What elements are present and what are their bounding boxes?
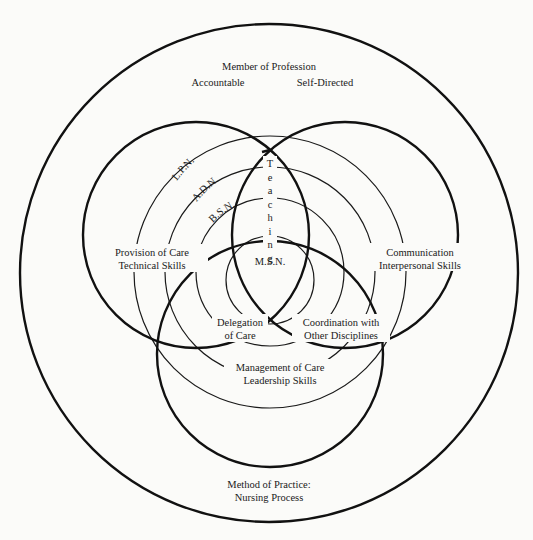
coordination-label: Coordination with xyxy=(303,317,380,328)
teaching-letter: i xyxy=(269,226,272,237)
lpn-label: L.P.N. xyxy=(170,155,196,182)
teaching-letter: h xyxy=(267,212,273,223)
accountable-label: Accountable xyxy=(191,77,244,88)
teaching-letter: T xyxy=(267,158,274,169)
teaching-letter: c xyxy=(268,199,273,210)
outer-circle-profession xyxy=(20,24,518,522)
technical-skills-label: Technical Skills xyxy=(118,260,185,271)
of-care-label: of Care xyxy=(224,330,256,341)
teaching-letter: g xyxy=(267,253,273,264)
teaching-letter: n xyxy=(267,239,273,250)
self-directed-label: Self-Directed xyxy=(297,77,354,88)
method-of-practice-label: Method of Practice: xyxy=(227,479,310,490)
nursing-process-label: Nursing Process xyxy=(235,492,304,503)
teaching-letter: e xyxy=(268,172,273,183)
interpersonal-skills-label: Interpersonal Skills xyxy=(379,260,461,271)
management-of-care-label: Management of Care xyxy=(236,362,325,373)
teaching-letter: a xyxy=(268,185,273,196)
adn-label: A.D.N. xyxy=(190,174,220,204)
provision-of-care-label: Provision of Care xyxy=(115,247,189,258)
nursing-competency-diagram: Member of Profession Accountable Self-Di… xyxy=(0,0,533,540)
other-disciplines-label: Other Disciplines xyxy=(304,330,378,341)
venn-circle-management-of-care xyxy=(157,241,383,467)
delegation-label: Delegation xyxy=(217,317,264,328)
member-of-profession-label: Member of Profession xyxy=(222,61,317,72)
leadership-skills-label: Leadership Skills xyxy=(243,375,316,386)
communication-label: Communication xyxy=(386,247,454,258)
